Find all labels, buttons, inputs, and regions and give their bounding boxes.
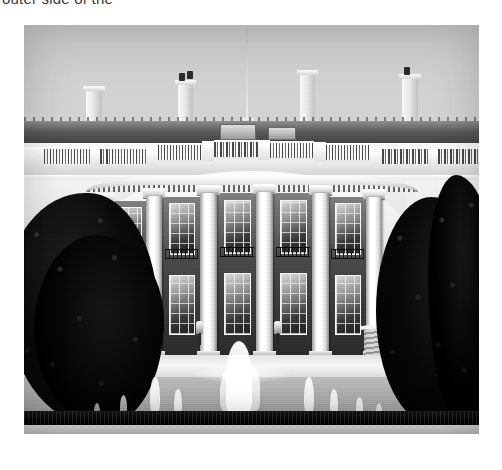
parapet-pier-4: [258, 140, 270, 160]
column-5: [312, 193, 329, 353]
white-house-photo: [24, 25, 479, 434]
chimney-center-left-cap: [175, 80, 196, 85]
flagpole-icon: [246, 28, 248, 124]
parapet-pier-5: [314, 142, 326, 162]
upper-window-5: [335, 203, 361, 255]
parapet-pier-6: [370, 147, 382, 167]
balustrade-left-b: [100, 147, 146, 166]
roof-equipment-b: [268, 127, 296, 140]
balustrade-center-b: [214, 140, 258, 159]
balcony-rail-2: [165, 249, 198, 259]
parapet-pier-2: [146, 147, 158, 167]
balustrade-right-b: [438, 147, 479, 166]
lower-window-2: [169, 275, 195, 335]
window-muntins: [170, 276, 194, 334]
parapet-pier-1: [90, 147, 100, 167]
balustrade-right-a: [382, 147, 428, 166]
window-muntins: [336, 204, 360, 254]
window-muntins: [281, 274, 306, 334]
fountain-jet-main: [226, 341, 252, 415]
foliage-texture: [34, 235, 164, 425]
window-muntins: [225, 201, 250, 253]
balustrade-center-a: [158, 143, 202, 162]
balustrade-center-c: [270, 141, 314, 160]
balcony-rail-4: [276, 247, 310, 257]
window-muntins: [336, 276, 360, 334]
upper-window-3: [224, 200, 251, 254]
upper-window-4: [280, 200, 307, 254]
chimney-center-right-cap: [297, 70, 318, 75]
balcony-rail-5: [331, 249, 364, 259]
parapet-pier-3: [202, 141, 214, 161]
window-muntins: [170, 204, 194, 254]
balcony-rail-3: [220, 247, 254, 257]
foreground-strip: [24, 425, 479, 434]
window-muntins: [281, 201, 306, 253]
tree-left-secondary: [34, 235, 164, 425]
chimney-pot-c: [404, 67, 410, 75]
portico-lamp-post-right: [277, 333, 279, 345]
parapet-panel-left: [24, 147, 44, 167]
roof-equipment-a: [220, 124, 256, 140]
chimney-right-cap: [399, 74, 421, 79]
lower-window-3: [224, 273, 251, 335]
portico-lamp-post-left: [199, 333, 201, 345]
upper-window-2: [169, 203, 195, 255]
lower-window-4: [280, 273, 307, 335]
parapet-pier-7: [428, 147, 438, 167]
lower-window-5: [335, 275, 361, 335]
chimney-pot-a: [179, 73, 185, 81]
window-muntins: [225, 274, 250, 334]
caption-text: outer side of the: [2, 0, 113, 6]
caption-strip: outer side of the: [0, 0, 502, 12]
chimney-left-cap: [83, 86, 105, 91]
column-4: [256, 192, 273, 353]
balustrade-left-a: [44, 147, 90, 166]
balustrade-center-d: [326, 143, 370, 162]
chimney-pot-b: [187, 71, 193, 79]
